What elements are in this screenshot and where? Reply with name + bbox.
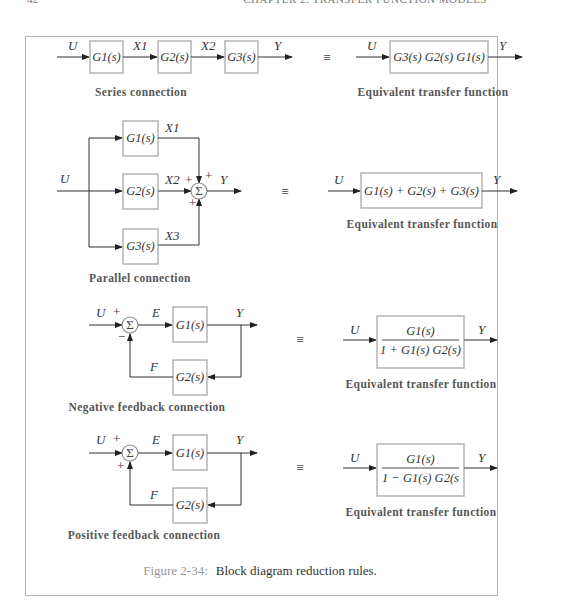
series-equivalent-caption: Equivalent transfer function: [358, 86, 509, 99]
parallel-output-label: Y: [220, 172, 229, 187]
pos-fb-input-label: U: [96, 432, 107, 447]
neg-fb-equivalent-diagram: U G1(s) 1 + G1(s) G2(s) Y Equivalent tra…: [343, 316, 497, 391]
negative-feedback-diagram: U + Σ − E G1(s) Y G2(s) F Negative feedb…: [69, 304, 257, 414]
parallel-sign-x1: +: [205, 168, 212, 183]
figure-caption-text: Block diagram reduction rules.: [216, 563, 377, 578]
neg-fb-eq-input-label: U: [350, 322, 361, 337]
pos-fb-eq-output-label: Y: [478, 450, 487, 465]
neg-fb-sign-minus: −: [118, 329, 125, 344]
series-equivalence-symbol: ≡: [323, 50, 330, 65]
parallel-caption: Parallel connection: [89, 272, 191, 284]
sigma-icon: Σ: [195, 183, 203, 198]
pos-fb-sign-plus-bottom: +: [117, 458, 124, 473]
neg-fb-input-label: U: [96, 305, 107, 320]
neg-fb-equivalent-caption: Equivalent transfer function: [346, 378, 497, 391]
series-eq-input-label: U: [367, 38, 378, 53]
pos-fb-caption: Positive feedback connection: [68, 529, 221, 541]
parallel-eq-input-label: U: [334, 172, 345, 187]
neg-fb-sign-plus: +: [113, 304, 120, 319]
pos-fb-eq-denominator: 1 − G1(s) G2(s: [382, 471, 459, 485]
parallel-block-g1-label: G1(s): [126, 131, 154, 145]
neg-fb-forward-block-label: G1(s): [176, 318, 204, 332]
pos-fb-forward-block-label: G1(s): [176, 446, 204, 460]
series-equivalent-diagram: U G3(s) G2(s) G1(s) Y Equivalent transfe…: [356, 38, 522, 99]
pos-fb-error-label: E: [151, 432, 160, 447]
neg-fb-eq-numerator: G1(s): [406, 324, 434, 338]
neg-fb-output-label: Y: [236, 305, 245, 320]
series-input-label: U: [68, 38, 79, 53]
pos-fb-equivalence-symbol: ≡: [296, 460, 303, 475]
parallel-input-label: U: [60, 171, 71, 186]
positive-feedback-diagram: U + Σ + E G1(s) Y G2(s) F Positive feedb…: [68, 431, 257, 541]
series-connection-diagram: U G1(s) X1 G2(s) X2 G3(s) Y Series conne…: [57, 38, 292, 98]
neg-fb-equivalence-symbol: ≡: [296, 332, 303, 347]
parallel-equivalent-expression: G1(s) + G2(s) + G3(s): [364, 184, 479, 198]
pos-fb-eq-input-label: U: [350, 450, 361, 465]
series-block-g3-label: G3(s): [227, 50, 255, 64]
pos-fb-sign-plus-top: +: [113, 431, 120, 446]
parallel-equivalence-symbol: ≡: [281, 184, 288, 199]
parallel-block-g2-label: G2(s): [126, 184, 154, 198]
series-signal-x2: X2: [200, 38, 216, 53]
series-output-label: Y: [274, 38, 283, 53]
pos-fb-equivalent-caption: Equivalent transfer function: [346, 506, 497, 519]
parallel-signal-x1: X1: [164, 120, 179, 135]
parallel-eq-output-label: Y: [493, 172, 502, 187]
figure-caption: Figure 2-34: Block diagram reduction rul…: [143, 561, 377, 578]
sigma-icon: Σ: [126, 317, 134, 332]
figure-label: Figure 2-34:: [143, 563, 208, 578]
parallel-signal-x3: X3: [164, 228, 180, 243]
series-caption: Series connection: [95, 86, 187, 98]
pos-fb-eq-numerator: G1(s): [406, 452, 434, 466]
neg-fb-eq-denominator: 1 + G1(s) G2(s): [380, 343, 461, 357]
parallel-sign-x2: +: [185, 172, 192, 187]
pos-fb-output-label: Y: [236, 432, 245, 447]
sigma-icon: Σ: [126, 445, 134, 460]
neg-fb-feedback-label: F: [149, 359, 159, 374]
parallel-equivalent-diagram: U G1(s) + G2(s) + G3(s) Y Equivalent tra…: [328, 172, 517, 231]
svg-text:Figure 2-34: Block diagr: Figure 2-34: Block diagram reduction rul…: [143, 561, 377, 578]
block-diagram-figure: U G1(s) X1 G2(s) X2 G3(s) Y Series conne…: [0, 0, 580, 616]
parallel-block-g3-label: G3(s): [126, 239, 154, 253]
parallel-signal-x2: X2: [164, 172, 180, 187]
neg-fb-eq-output-label: Y: [478, 322, 487, 337]
parallel-equivalent-caption: Equivalent transfer function: [347, 218, 498, 231]
neg-fb-feedback-block-label: G2(s): [176, 370, 204, 384]
pos-fb-feedback-block-label: G2(s): [176, 498, 204, 512]
series-signal-x1: X1: [132, 38, 147, 53]
series-eq-output-label: Y: [499, 38, 508, 53]
neg-fb-caption: Negative feedback connection: [69, 401, 226, 414]
series-block-g2-label: G2(s): [160, 50, 188, 64]
series-block-g1-label: G1(s): [92, 50, 120, 64]
series-equivalent-expression: G3(s) G2(s) G1(s): [393, 50, 485, 64]
pos-fb-feedback-label: F: [149, 487, 159, 502]
neg-fb-error-label: E: [151, 305, 160, 320]
parallel-connection-diagram: U G1(s) G2(s) G3(s) X1 X2 X3 Σ + + + Y P…: [57, 120, 241, 284]
pos-fb-equivalent-diagram: U G1(s) 1 − G1(s) G2(s Y Equivalent tran…: [343, 444, 497, 519]
parallel-sign-x3: +: [189, 195, 196, 210]
